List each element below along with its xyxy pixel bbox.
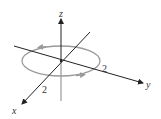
circle-arrow-bottom [76, 75, 83, 76]
radius-label-y: 2 [102, 63, 107, 74]
x-axis-label: x [11, 105, 17, 116]
y-axis [14, 46, 143, 83]
x-axis [22, 32, 90, 104]
circle-arrow-top [40, 47, 46, 48]
z-axis-label: z [58, 8, 63, 19]
origin-point [60, 60, 62, 62]
radius-label-x: 2 [42, 84, 47, 95]
axes-diagram: z y x 2 2 [0, 0, 161, 119]
y-axis-label: y [145, 79, 151, 90]
